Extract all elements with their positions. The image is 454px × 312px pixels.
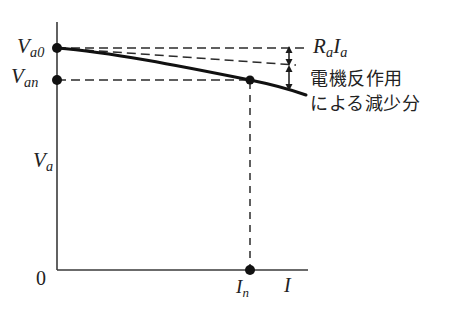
y-axis-label: Va [33, 150, 53, 171]
y-tick-label-van: Van [11, 66, 38, 87]
point-in [245, 265, 255, 275]
characteristic-curve [57, 48, 306, 95]
origin-label: 0 [36, 268, 46, 288]
armature-reaction-arrow [286, 65, 293, 91]
resistance-drop-arrow [286, 46, 293, 66]
armature-reaction-label-line2: による減少分 [310, 95, 420, 113]
point-van [52, 75, 62, 85]
y-tick-label-va0: Va0 [17, 36, 44, 57]
x-axis-label: I [284, 275, 291, 295]
point-va0 [52, 43, 62, 53]
armature-reaction-label-line1: 電機反作用 [310, 70, 403, 88]
x-tick-label-in: In [236, 277, 249, 296]
resistance-drop-label: RaIa [313, 36, 347, 57]
characteristic-curve-figure [0, 0, 454, 312]
point-rated [246, 76, 255, 85]
